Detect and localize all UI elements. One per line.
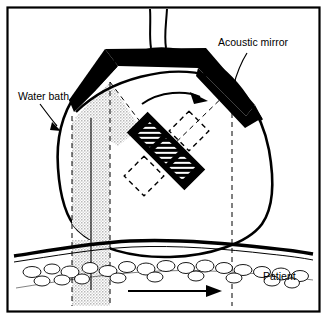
label-acoustic-mirror: Acoustic mirror (218, 36, 289, 48)
figure-root: Acoustic mirror Water bath Patient (0, 0, 327, 319)
diagram-canvas: Acoustic mirror Water bath Patient (0, 0, 327, 319)
label-patient: Patient (263, 270, 296, 282)
label-water-bath: Water bath (18, 90, 69, 102)
